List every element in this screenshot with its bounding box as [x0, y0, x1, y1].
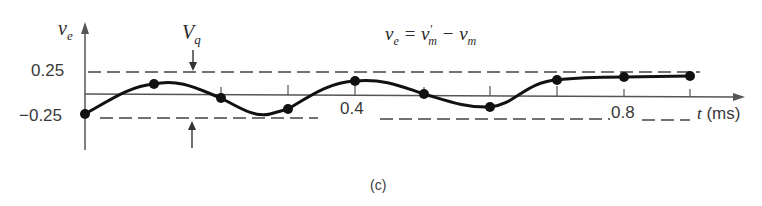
y-tick-label-top: 0.25 [31, 62, 64, 79]
x-axis-label: t (ms) [697, 105, 740, 122]
data-point [283, 104, 293, 114]
x-axis-arrow-icon [733, 93, 745, 101]
vq-label: Vq [182, 22, 201, 46]
figure: ve Vq ve = v′m − vm 0.25 −0.25 0.4 0.8 t… [0, 0, 762, 206]
chart-canvas [0, 0, 762, 206]
y-axis-label: ve [58, 18, 73, 42]
x-tick-label-0.4: 0.4 [340, 100, 364, 117]
data-point [485, 102, 495, 112]
y-axis-arrow-icon [81, 22, 89, 34]
data-point [685, 71, 695, 81]
figure-caption: (c) [370, 178, 386, 192]
equation-label: ve = v′m − vm [385, 23, 476, 47]
vq-arrow-up-icon [188, 121, 196, 130]
x-axis [85, 94, 735, 97]
data-point [80, 109, 90, 119]
y-tick-label-bottom: −0.25 [19, 107, 62, 124]
data-point [216, 93, 226, 103]
data-point [350, 76, 360, 86]
data-point [619, 72, 629, 82]
data-point [419, 89, 429, 99]
vq-arrow-down-icon [189, 62, 197, 71]
data-point [552, 75, 562, 85]
x-tick-label-0.8: 0.8 [611, 104, 635, 121]
data-point [149, 79, 159, 89]
